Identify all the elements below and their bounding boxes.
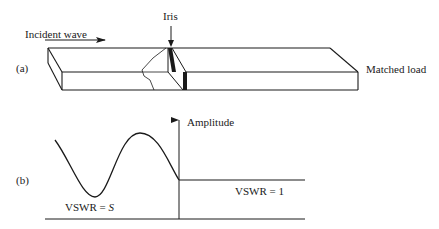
part-a-label: (a) <box>16 63 28 74</box>
iris-plate <box>168 48 187 90</box>
vswr-s-label: VSWR = S <box>65 202 114 213</box>
standing-wave-curve <box>55 133 179 197</box>
vswr-s-prefix: VSWR = <box>65 201 108 213</box>
iris-label: Iris <box>163 11 178 22</box>
matched-load-label: Matched load <box>366 64 426 75</box>
vswr-s-variable: S <box>108 201 114 213</box>
vswr-1-label: VSWR = 1 <box>235 186 284 197</box>
incident-wave-label: Incident wave <box>25 29 87 40</box>
waveguide <box>48 48 358 90</box>
part-b-label: (b) <box>16 175 29 186</box>
iris-pointer-arrow <box>168 26 174 47</box>
amplitude-axis-label: Amplitude <box>187 117 234 128</box>
